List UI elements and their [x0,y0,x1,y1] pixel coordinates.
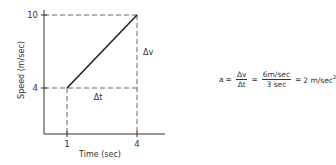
x-axis-label: Time (sec) [78,150,121,159]
eq-result: 2 m/sec2 [303,74,336,85]
acceleration-equation: a = Δv Δt = 6m/sec 3 sec = 2 m/sec2 [219,70,336,89]
x-tick-label-1: 1 [64,139,69,149]
speed-line [67,15,137,88]
x-tick-label-4: 4 [134,139,139,149]
eq-equals-2: = [251,75,257,84]
y-axis-label: Speed (m/sec) [17,41,26,99]
fraction-values-numerator: 6m/sec [262,70,291,80]
fraction-delta-numerator: Δv [236,70,248,80]
fraction-values-denominator: 3 sec [266,80,288,89]
delta-t-label: Δt [94,93,103,102]
eq-lhs: a [219,75,224,84]
eq-equals-1: = [226,75,232,84]
fraction-values: 6m/sec 3 sec [262,70,291,89]
eq-equals-3: = [295,75,301,84]
eq-result-value: 2 m/sec [303,76,333,85]
y-tick-label-4: 4 [33,83,38,93]
fraction-delta: Δv Δt [236,70,248,89]
delta-v-label: Δv [143,48,153,57]
y-tick-label-10: 10 [27,10,38,20]
fraction-delta-denominator: Δt [237,80,247,89]
